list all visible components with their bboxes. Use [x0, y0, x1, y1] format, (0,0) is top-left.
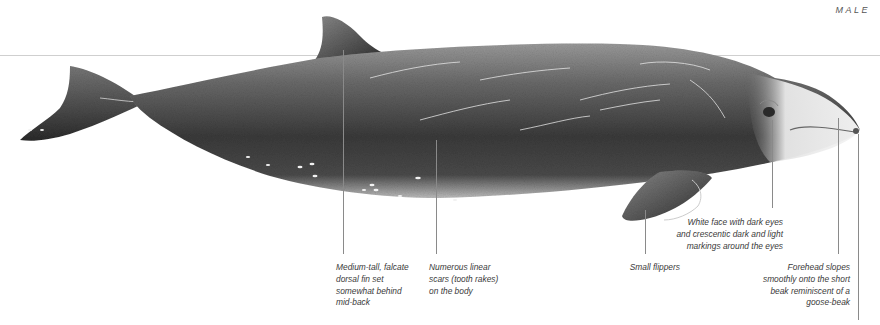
- leader-forehead: [838, 118, 839, 254]
- eye: [763, 107, 775, 117]
- tail-fluke: [20, 66, 150, 141]
- leader-dorsal-fin: [343, 50, 344, 254]
- leader-scars: [436, 140, 437, 254]
- leader-beak: [858, 134, 859, 320]
- annotation-flippers: Small flippers: [600, 262, 680, 274]
- annotation-scars: Numerous linear scars (tooth rakes) on t…: [429, 262, 539, 297]
- annotation-face: White face with dark eyes and crescentic…: [640, 217, 783, 252]
- annotation-forehead: Forehead slopes smoothly onto the short …: [740, 262, 850, 309]
- whale-body: [130, 44, 860, 198]
- leader-face: [772, 120, 773, 208]
